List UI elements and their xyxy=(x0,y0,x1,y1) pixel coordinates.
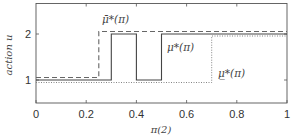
x-tick-label: 0.8 xyxy=(229,108,244,120)
lower-bound-label: μ̲*(π) xyxy=(218,67,245,80)
upper-bound-label: μ̄*(π) xyxy=(102,13,129,25)
y-axis-label: action u xyxy=(3,35,14,76)
x-tick-label: 0 xyxy=(33,108,39,120)
x-axis-label: π(2) xyxy=(150,124,172,135)
y-tick-label: 1 xyxy=(25,74,31,86)
x-tick-label: 1 xyxy=(284,108,290,120)
optimal-policy-label: μ*(π) xyxy=(167,41,194,53)
chart: 0 0.2 0.4 0.6 0.8 1 2 1 π(2) action u μ̄… xyxy=(0,0,301,139)
y-tick-label: 2 xyxy=(25,28,31,40)
x-tick-label: 0.2 xyxy=(79,108,94,120)
x-tick-label: 0.4 xyxy=(129,108,144,120)
x-tick-label: 0.6 xyxy=(179,108,194,120)
optimal-policy-curve xyxy=(36,34,287,80)
